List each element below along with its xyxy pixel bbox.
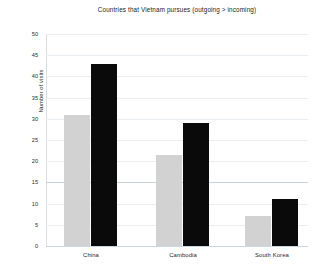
y-tick-label: 10 [18,201,38,207]
bar-chart: Countries that Vietnam pursues (outgoing… [0,0,316,280]
y-tick-label: 35 [18,95,38,101]
bar-incoming [64,115,90,246]
y-tick-label: 40 [18,73,38,79]
y-tick-label: 30 [18,116,38,122]
bar-outgoing [91,64,117,246]
y-tick-label: 45 [18,52,38,58]
bar-group [245,34,299,246]
plot-area [46,34,308,246]
y-tick-label: 5 [18,222,38,228]
x-tick-label: Cambodia [138,252,228,258]
y-tick-label: 15 [18,179,38,185]
y-tick-label: 25 [18,137,38,143]
bar-outgoing [183,123,209,246]
y-tick-label: 0 [18,243,38,249]
y-tick-label: 20 [18,158,38,164]
gridline [46,246,308,247]
x-tick-label: South Korea [227,252,316,258]
y-tick-labels: 50454035302520151050 [0,0,46,280]
y-tick-label: 50 [18,31,38,37]
bar-incoming [156,155,182,246]
bar-group [156,34,210,246]
x-tick-label: China [46,252,136,258]
bar-outgoing [272,199,298,246]
bar-group [64,34,118,246]
chart-title: Countries that Vietnam pursues (outgoing… [0,6,316,13]
bar-incoming [245,216,271,246]
